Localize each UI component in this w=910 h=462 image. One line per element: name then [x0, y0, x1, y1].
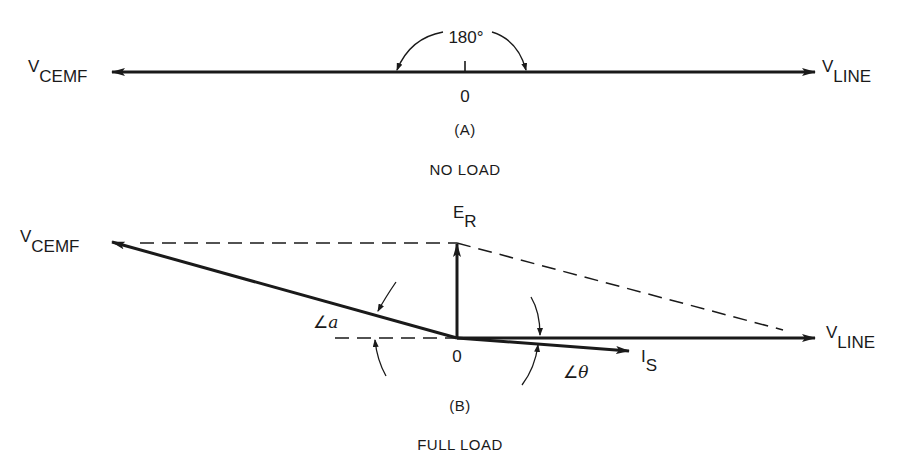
- angle-alpha-arrow-top: [378, 282, 396, 311]
- i-s-vector: [457, 338, 629, 351]
- angle-alpha-arrow-bottom: [375, 340, 386, 376]
- dashed-diagonal-line: [457, 243, 783, 330]
- v-line-label-b: VLINE: [826, 323, 875, 352]
- angle-label-180: 180°: [448, 28, 483, 47]
- angle-arc-right-a: [492, 32, 526, 70]
- caption-b: (B): [449, 397, 471, 414]
- angle-theta-label: ∠θ: [563, 362, 589, 382]
- condition-full-load: FULL LOAD: [417, 436, 503, 453]
- v-cemf-label-a: VCEMF: [28, 57, 88, 86]
- diagram-a-no-load: 180° VCEMF VLINE 0 (A) NO LOAD: [28, 28, 871, 178]
- angle-arc-left-a: [397, 32, 443, 70]
- angle-theta-arrow-top: [531, 297, 540, 335]
- v-cemf-vector-b: [112, 242, 457, 338]
- v-line-label-a: VLINE: [822, 57, 871, 86]
- e-r-label: ER: [453, 203, 477, 231]
- i-s-label: IS: [641, 347, 657, 375]
- diagram-b-full-load: VCEMF ER VLINE IS ∠a ∠θ 0 (B) FULL LOAD: [20, 203, 875, 453]
- phasor-diagram: 180° VCEMF VLINE 0 (A) NO LOAD: [0, 0, 910, 462]
- v-cemf-label-b: VCEMF: [20, 227, 80, 256]
- origin-label-a: 0: [460, 87, 469, 106]
- condition-no-load: NO LOAD: [429, 161, 500, 178]
- angle-alpha-label: ∠a: [313, 312, 338, 332]
- origin-label-b: 0: [452, 347, 461, 366]
- caption-a: (A): [454, 121, 476, 138]
- angle-theta-arrow-bottom: [522, 345, 538, 385]
